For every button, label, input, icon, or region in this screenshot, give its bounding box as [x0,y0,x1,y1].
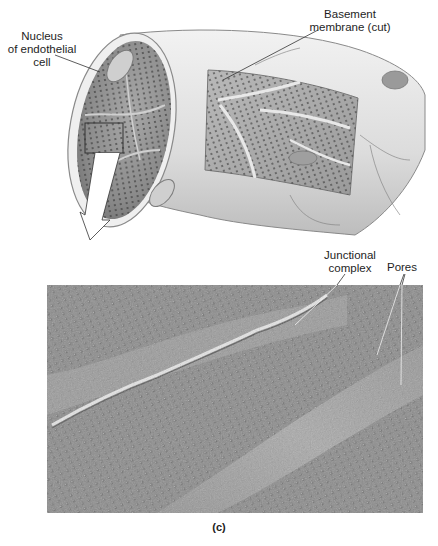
label-nucleus-of-endothelial-cell: Nucleus of endothelial cell [0,30,84,69]
label-line: Junctional [315,249,385,262]
label-basement-membrane: Basement membrane (cut) [300,8,400,34]
label-line: of endothelial [0,43,84,56]
sem-micrograph [47,285,423,513]
label-line: cell [0,56,84,69]
label-line: Basement [300,8,400,21]
label-line: membrane (cut) [300,21,400,34]
micrograph-leaders-top [0,270,438,290]
panel-label: (c) [0,521,438,533]
label-line: Nucleus [0,30,84,43]
